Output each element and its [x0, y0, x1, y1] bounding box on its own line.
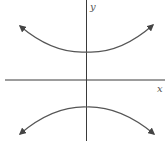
- hyperbola-diagram: y x: [0, 0, 167, 141]
- y-axis-label: y: [89, 1, 96, 12]
- x-axis-label: x: [157, 83, 163, 94]
